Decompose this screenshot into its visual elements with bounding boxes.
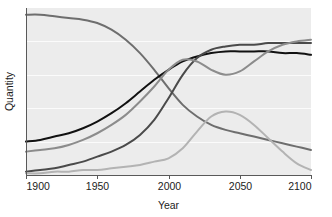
x-tick-labels-group: 19001950200020502100 <box>27 180 312 192</box>
x-tick-label: 2000 <box>158 180 182 192</box>
x-tick-label: 2050 <box>229 180 253 192</box>
x-tick-label: 1950 <box>86 180 110 192</box>
chart-canvas: 19001950200020502100 Year Quantity <box>0 0 332 217</box>
x-tick-label: 2100 <box>288 180 312 192</box>
y-axis-label: Quantity <box>3 71 15 111</box>
x-tick-label: 1900 <box>27 180 51 192</box>
x-axis-label: Year <box>158 199 180 211</box>
line-chart: 19001950200020502100 Year Quantity <box>0 0 332 217</box>
plot-area-background <box>26 8 311 175</box>
